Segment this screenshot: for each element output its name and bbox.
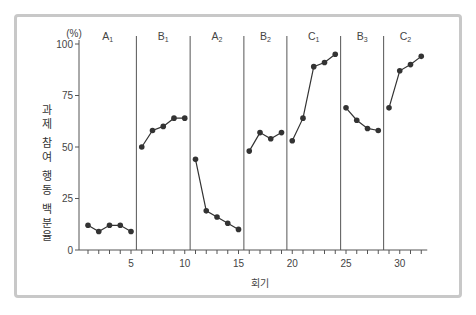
series-b1 bbox=[139, 115, 188, 149]
data-point bbox=[96, 229, 102, 235]
data-point bbox=[193, 157, 199, 163]
x-tick-label: 20 bbox=[287, 258, 299, 269]
y-tick-label: 75 bbox=[62, 90, 74, 101]
line-chart: 025507510051015202530 A1B1A2B2C1B3C2 (%)… bbox=[0, 0, 476, 315]
data-point bbox=[354, 117, 360, 123]
data-point bbox=[214, 214, 220, 220]
data-point bbox=[203, 208, 209, 214]
data-point bbox=[268, 136, 274, 142]
series-line bbox=[389, 56, 421, 108]
series-b2 bbox=[246, 130, 284, 154]
data-point bbox=[257, 130, 263, 136]
x-tick-label: 15 bbox=[233, 258, 245, 269]
data-point bbox=[150, 128, 156, 134]
x-tick-label: 25 bbox=[340, 258, 352, 269]
axes: 025507510051015202530 bbox=[56, 39, 427, 270]
phase-label-c1: C1 bbox=[308, 30, 320, 43]
data-point bbox=[128, 229, 134, 235]
y-tick-label: 50 bbox=[62, 142, 74, 153]
y-tick-label: 25 bbox=[62, 193, 74, 204]
phase-label-b1: B1 bbox=[158, 30, 169, 43]
data-point bbox=[418, 54, 424, 60]
data-point bbox=[311, 64, 317, 70]
phase-dividers bbox=[136, 36, 383, 250]
series-a2 bbox=[193, 157, 242, 233]
data-point bbox=[182, 115, 188, 121]
data-point bbox=[160, 124, 166, 130]
series-line bbox=[249, 133, 281, 152]
series-a1 bbox=[85, 222, 134, 234]
data-point bbox=[300, 115, 306, 121]
series-line bbox=[346, 108, 378, 131]
data-point bbox=[139, 144, 145, 150]
y-unit-label: (%) bbox=[66, 28, 82, 39]
data-point bbox=[279, 130, 285, 136]
data-point bbox=[289, 138, 295, 144]
y-tick-label: 100 bbox=[56, 39, 73, 50]
phase-label-a2: A2 bbox=[212, 30, 223, 43]
data-point bbox=[322, 60, 328, 66]
data-point bbox=[246, 148, 252, 154]
data-point bbox=[107, 222, 113, 228]
phase-label-c2: C2 bbox=[400, 30, 412, 43]
data-point bbox=[397, 68, 403, 74]
data-point bbox=[343, 105, 349, 111]
phase-label-a1: A1 bbox=[102, 30, 113, 43]
x-axis-title: 회기 bbox=[251, 278, 269, 289]
data-point bbox=[85, 222, 91, 228]
x-tick-label: 10 bbox=[179, 258, 191, 269]
data-point bbox=[365, 126, 371, 132]
x-tick-label: 5 bbox=[128, 258, 134, 269]
x-tick-label: 30 bbox=[394, 258, 406, 269]
series-b3 bbox=[343, 105, 381, 133]
data-point bbox=[375, 128, 381, 134]
data-point bbox=[225, 220, 231, 226]
phase-labels: A1B1A2B2C1B3C2 bbox=[102, 30, 411, 43]
phase-label-b3: B3 bbox=[357, 30, 368, 43]
series-c2 bbox=[386, 54, 424, 111]
y-tick-label: 0 bbox=[67, 245, 73, 256]
data-point bbox=[386, 105, 392, 111]
data-point bbox=[236, 227, 242, 233]
phase-label-b2: B2 bbox=[260, 30, 271, 43]
data-point bbox=[171, 115, 177, 121]
data-point bbox=[408, 62, 414, 68]
data-point bbox=[117, 222, 123, 228]
series-c1 bbox=[289, 52, 338, 144]
series-line bbox=[142, 118, 185, 147]
data-point bbox=[332, 52, 338, 58]
